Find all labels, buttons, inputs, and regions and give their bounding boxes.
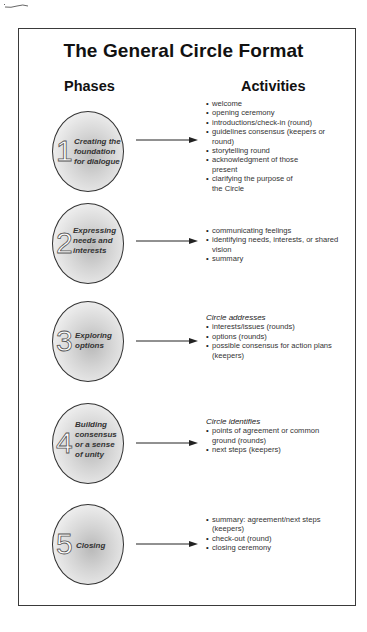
phase-label: Building consensus or a sense of unity	[75, 420, 117, 460]
activity-item: acknowledgment of those present	[206, 155, 312, 174]
activity-item: opening ceremony	[206, 108, 351, 117]
phase-2-circle: 2 Expressing needs and interests	[52, 203, 124, 284]
phase-1-circle: 1 Creating the foundation for dialogue	[52, 111, 124, 192]
arrow-icon	[136, 540, 198, 548]
diagram-title: The General Circle Format	[0, 40, 367, 62]
activity-lead: Circle identifies	[206, 417, 351, 426]
activity-lead: Circle addresses	[206, 313, 351, 322]
arrow-icon	[136, 136, 198, 144]
activity-item: possible consensus for action plans (kee…	[206, 341, 336, 360]
activity-item: options (rounds)	[206, 332, 351, 341]
phase-number: 5	[56, 529, 73, 559]
phase-number: 4	[56, 428, 73, 458]
activity-item: interests/issues (rounds)	[206, 322, 351, 331]
phase-4-activities: Circle identifies points of agreement or…	[206, 417, 351, 455]
activity-item: summary	[206, 254, 351, 263]
phase-4-circle: 4 Building consensus or a sense of unity	[52, 403, 124, 484]
decorative-scribble	[3, 2, 29, 9]
activity-item: check-out (round)	[206, 534, 351, 543]
activity-item: introductions/check-in (round)	[206, 118, 351, 127]
phase-number: 2	[56, 228, 73, 258]
arrow-icon	[136, 237, 198, 245]
phase-label: Creating the foundation for dialogue	[74, 137, 121, 167]
arrow-icon	[136, 439, 198, 447]
phase-label: Exploring options	[75, 331, 112, 351]
phases-heading: Phases	[64, 78, 115, 94]
phase-2-activities: communicating feelings identifying needs…	[206, 226, 351, 264]
activity-item: identifying needs, interests, or shared …	[206, 235, 340, 254]
activity-item: next steps (keepers)	[206, 445, 351, 454]
arrow-icon	[136, 337, 198, 345]
activity-item: points of agreement or common ground (ro…	[206, 426, 342, 445]
phase-3-activities: Circle addresses interests/issues (round…	[206, 313, 351, 360]
phase-label: Expressing needs and interests	[73, 226, 116, 256]
phase-5-circle: 5 Closing	[52, 504, 124, 585]
phase-number: 1	[56, 136, 73, 166]
activity-item: storytelling round	[206, 146, 351, 155]
activity-item: guidelines consensus (keepers or round)	[206, 127, 334, 146]
phase-label: Closing	[76, 541, 105, 551]
activity-item: clarifying the purpose of the Circle	[206, 174, 302, 193]
phase-5-activities: summary: agreement/next steps (keepers) …	[206, 515, 351, 553]
activity-item: summary: agreement/next steps (keepers)	[206, 515, 340, 534]
activities-heading: Activities	[241, 78, 305, 94]
activity-item: communicating feelings	[206, 226, 351, 235]
activity-item: closing ceremony	[206, 543, 351, 552]
phase-1-activities: welcome opening ceremony introductions/c…	[206, 99, 351, 193]
phase-number: 3	[56, 326, 73, 356]
phase-3-circle: 3 Exploring options	[52, 301, 124, 382]
activity-item: welcome	[206, 99, 351, 108]
